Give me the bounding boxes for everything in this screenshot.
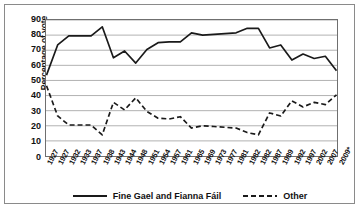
y-tick-label: 10 [23,137,41,146]
y-tick-label: 30 [23,107,41,116]
y-tick-label: 0 [23,153,41,162]
solid-line-icon [73,192,107,200]
dashed-line-icon [243,192,277,200]
y-tick-label: 90 [23,15,41,24]
y-tick-label: 50 [23,76,41,85]
y-tick-label: 70 [23,45,41,54]
legend-label: Fine Gael and Fianna Fáil [113,191,222,201]
chart-legend: Fine Gael and Fianna FáilOther [45,188,335,204]
y-axis-tick-labels: 9080706050403020100 [21,14,41,162]
legend-item-1[interactable]: Fine Gael and Fianna Fáil [73,191,222,201]
series-line-1 [46,27,336,75]
legend-label: Other [283,191,307,201]
legend-item-2[interactable]: Other [243,191,307,201]
y-tick-label: 40 [23,91,41,100]
chart-figure: Percentage of vote 9080706050403020100 1… [0,0,359,208]
plot-svg [46,20,337,156]
y-tick-label: 80 [23,30,41,39]
plot-area [45,19,338,157]
y-tick-label: 60 [23,61,41,70]
y-tick-label: 20 [23,122,41,131]
